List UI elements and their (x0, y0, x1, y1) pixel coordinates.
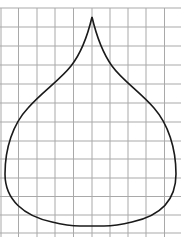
grid-diagram (0, 0, 181, 237)
paper-background (0, 0, 181, 237)
onion-dome-figure (0, 0, 181, 237)
